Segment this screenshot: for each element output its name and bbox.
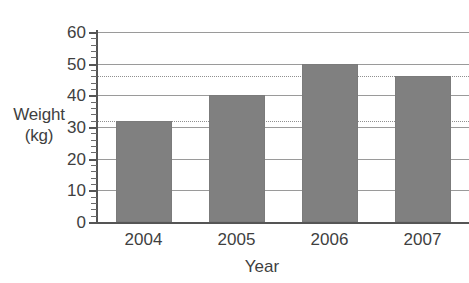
y-tick-minor-56: [91, 45, 97, 46]
y-tick-major-10: [89, 190, 98, 192]
y-tick-minor-42: [91, 89, 97, 90]
y-tick-minor-2: [91, 216, 97, 217]
y-tick-label-10: 10: [52, 182, 86, 199]
bar-2004[interactable]: [116, 121, 172, 222]
y-tick-minor-34: [91, 114, 97, 115]
y-tick-label-40: 40: [52, 87, 86, 104]
y-tick-minor-6: [91, 203, 97, 204]
y-tick-label-60: 60: [52, 24, 86, 41]
y-tick-minor-22: [91, 152, 97, 153]
y-tick-minor-14: [91, 178, 97, 179]
y-tick-major-50: [89, 64, 98, 66]
y-tick-minor-54: [91, 51, 97, 52]
x-axis-line: [96, 222, 469, 224]
y-tick-minor-38: [91, 102, 97, 103]
y-tick-minor-4: [91, 209, 97, 210]
y-tick-major-60: [89, 32, 98, 34]
y-tick-minor-26: [91, 140, 97, 141]
x-tick-label-2004: 2004: [97, 230, 190, 250]
y-tick-major-30: [89, 127, 98, 129]
y-tick-minor-16: [91, 171, 97, 172]
y-tick-label-20: 20: [52, 151, 86, 168]
y-tick-minor-18: [91, 165, 97, 166]
x-tick-label-2007: 2007: [376, 230, 469, 250]
y-tick-minor-24: [91, 146, 97, 147]
y-tick-major-20: [89, 159, 98, 161]
bar-2006[interactable]: [302, 64, 358, 222]
bar-2005[interactable]: [209, 95, 265, 222]
y-tick-minor-28: [91, 133, 97, 134]
x-tick-label-2005: 2005: [190, 230, 283, 250]
bar-series: [97, 32, 469, 222]
y-tick-minor-52: [91, 57, 97, 58]
y-tick-minor-58: [91, 38, 97, 39]
x-tick-label-2006: 2006: [283, 230, 376, 250]
y-tick-minor-48: [91, 70, 97, 71]
y-tick-label-30: 30: [52, 119, 86, 136]
y-tick-minor-12: [91, 184, 97, 185]
bar-chart-screenshot: Weight (kg) 0102030405060 20042005200620…: [0, 0, 469, 283]
y-tick-label-0: 0: [52, 214, 86, 231]
y-tick-minor-36: [91, 108, 97, 109]
bar-2007[interactable]: [395, 76, 451, 222]
x-axis-title: Year: [97, 257, 427, 277]
y-tick-minor-8: [91, 197, 97, 198]
y-tick-minor-44: [91, 83, 97, 84]
y-axis-tick-labels: 0102030405060: [50, 0, 86, 283]
y-tick-major-40: [89, 95, 98, 97]
y-tick-minor-32: [91, 121, 97, 122]
y-tick-label-50: 50: [52, 56, 86, 73]
y-tick-minor-46: [91, 76, 97, 77]
x-axis-tick-labels: 2004200520062007: [97, 230, 469, 254]
y-tick-major-0: [89, 222, 98, 224]
